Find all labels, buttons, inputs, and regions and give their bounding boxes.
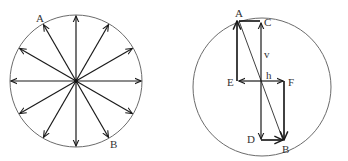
- radial-arrow: [76, 25, 109, 81]
- label-v: v: [264, 48, 270, 60]
- radial-arrow: [20, 49, 76, 82]
- label-b-right: B: [282, 143, 289, 155]
- label-h: h: [266, 69, 272, 81]
- radial-arrow: [44, 81, 77, 137]
- right-panel: A C v h E F D B: [193, 7, 331, 156]
- radial-arrow: [44, 25, 77, 81]
- radial-arrow: [76, 81, 132, 114]
- radial-arrow: [76, 81, 109, 137]
- label-d: D: [247, 133, 255, 145]
- label-c: C: [264, 16, 271, 28]
- label-a-left: A: [36, 12, 44, 24]
- right-circle: [193, 18, 331, 156]
- center-point: [74, 79, 78, 83]
- radial-arrow: [20, 81, 76, 114]
- radial-arrow: [76, 49, 132, 82]
- label-e: E: [227, 76, 234, 88]
- label-b-left: B: [110, 138, 117, 150]
- left-panel: A B: [10, 12, 142, 150]
- label-f: F: [288, 76, 294, 88]
- diagram: A B A C v h E F D B: [0, 0, 348, 161]
- label-a-right: A: [235, 7, 243, 19]
